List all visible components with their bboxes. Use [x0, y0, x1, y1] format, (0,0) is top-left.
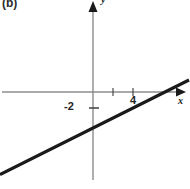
- graph-figure: (b) x y 4 -2: [0, 0, 190, 189]
- plotted-line: [0, 80, 189, 175]
- y-intercept-label: -2: [64, 101, 74, 112]
- x-axis-label: x: [178, 96, 183, 106]
- y-axis-arrowhead: [89, 1, 98, 12]
- x-intercept-label: 4: [130, 95, 136, 106]
- coordinate-plane: [0, 0, 190, 189]
- y-axis-label: y: [101, 0, 105, 5]
